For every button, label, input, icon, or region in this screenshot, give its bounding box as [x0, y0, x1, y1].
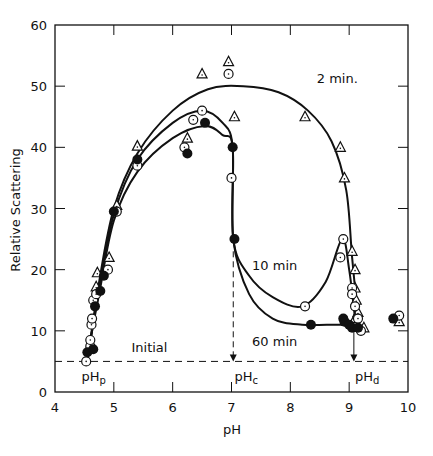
filled-circle-point [200, 118, 210, 128]
circle-dot [228, 73, 230, 75]
filled-circle-point [182, 148, 192, 158]
filled-circle-point [388, 314, 398, 324]
triangle-dot [97, 273, 99, 275]
subscript: d [373, 375, 379, 386]
annotation-label: Initial [131, 340, 167, 355]
triangle-point [132, 141, 142, 151]
circle-dot [91, 318, 93, 320]
circle-dot [357, 318, 359, 320]
triangle-point [335, 142, 345, 152]
circle-dot [192, 119, 194, 121]
filled-circle-point [353, 323, 363, 333]
circle-dot [92, 299, 94, 301]
x-tick-label: 6 [169, 400, 177, 415]
triangle-point [224, 56, 234, 65]
triangle-point [347, 246, 357, 256]
triangle-dot [351, 252, 353, 254]
filled-circle-point [132, 155, 142, 165]
triangle-point [300, 111, 310, 121]
curve-60-min [87, 126, 358, 355]
circle-dot [201, 110, 203, 112]
y-axis-label: Relative Scattering [8, 148, 23, 272]
filled-circle-point [99, 271, 109, 281]
filled-circle-point [109, 207, 119, 217]
subscript: p [100, 375, 106, 386]
circle-dot [85, 361, 87, 363]
pHd-arrow-head [350, 354, 357, 361]
triangle-dot [228, 62, 230, 64]
triangle-point [197, 68, 207, 78]
annotation-label: 10 min [252, 258, 297, 273]
x-tick-label: 4 [51, 400, 59, 415]
x-tick-label: 10 [400, 400, 417, 415]
x-tick-label: 9 [345, 400, 353, 415]
x-tick-label: 7 [227, 400, 235, 415]
y-tick-label: 40 [30, 140, 47, 155]
annotation-label: 2 min. [317, 71, 358, 86]
triangle-dot [187, 138, 189, 140]
annotation-label: pHp [81, 369, 105, 386]
circle-dot [340, 257, 342, 259]
circle-dot [398, 315, 400, 317]
y-tick-label: 0 [39, 385, 47, 400]
circle-dot [342, 238, 344, 240]
subscript: c [252, 375, 257, 386]
triangle-dot [108, 258, 110, 260]
triangle-point [350, 264, 360, 274]
x-tick-label: 5 [110, 400, 118, 415]
y-tick-label: 50 [30, 79, 47, 94]
triangle-dot [304, 117, 306, 119]
triangle-dot [344, 178, 346, 180]
filled-circle-point [88, 344, 98, 354]
circle-dot [304, 306, 306, 308]
circle-dot [91, 324, 93, 326]
triangle-point [182, 133, 192, 143]
fit-curves [87, 86, 358, 362]
triangle-dot [354, 270, 356, 272]
annotation-label: pHd [355, 369, 379, 386]
triangle-point [229, 111, 239, 121]
triangle-dot [340, 148, 342, 150]
y-tick-label: 30 [30, 202, 47, 217]
circle-dot [351, 293, 353, 295]
chart-container: 456789100102030405060 Initial2 min.10 mi… [0, 0, 433, 456]
y-tick-label: 10 [30, 324, 47, 339]
data-points [82, 56, 404, 366]
y-tick-label: 60 [30, 18, 47, 33]
annotation-label: pHc [234, 369, 258, 386]
annotation-label: 60 min [252, 334, 297, 349]
circle-dot [107, 269, 109, 271]
circle-dot [351, 287, 353, 289]
curve-2-min [87, 86, 358, 362]
filled-circle-point [90, 301, 100, 311]
x-tick-label: 8 [286, 400, 294, 415]
circle-dot [90, 339, 92, 341]
circle-dot [354, 306, 356, 308]
triangle-dot [201, 74, 203, 76]
circle-dot [184, 147, 186, 149]
pHc-arrow-head [230, 354, 237, 361]
circle-dot [231, 177, 233, 179]
filled-circle-point [228, 142, 238, 152]
scatter-plot: 456789100102030405060 Initial2 min.10 mi… [0, 0, 433, 456]
circle-dot [137, 165, 139, 167]
triangle-dot [137, 146, 139, 148]
filled-circle-point [95, 286, 105, 296]
triangle-dot [398, 322, 400, 324]
triangle-point [339, 172, 349, 182]
y-tick-label: 20 [30, 263, 47, 278]
x-axis-label: pH [223, 422, 241, 437]
filled-circle-point [306, 320, 316, 330]
filled-circle-point [229, 234, 239, 244]
triangle-dot [234, 117, 236, 119]
